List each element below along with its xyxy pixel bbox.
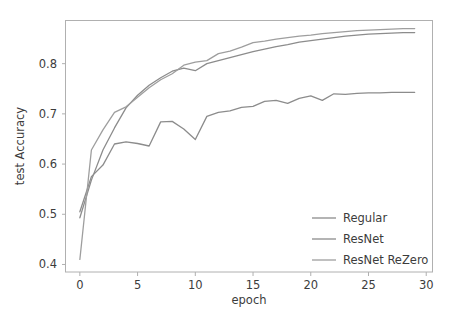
x-axis-ticks: 051015202530 bbox=[76, 272, 433, 292]
y-tick-label: 0.4 bbox=[39, 257, 57, 271]
y-axis-ticks: 0.40.50.60.70.8 bbox=[39, 57, 66, 272]
x-tick-label: 15 bbox=[246, 278, 261, 292]
x-tick-label: 10 bbox=[188, 278, 203, 292]
x-tick-label: 30 bbox=[419, 278, 434, 292]
series-line-resnet bbox=[80, 33, 415, 218]
y-tick-label: 0.8 bbox=[39, 57, 57, 71]
legend-label-resnet: ResNet bbox=[343, 232, 384, 246]
y-tick-label: 0.5 bbox=[39, 207, 57, 221]
y-tick-label: 0.6 bbox=[39, 157, 57, 171]
figure-container: 051015202530 0.40.50.60.70.8 RegularResN… bbox=[0, 0, 461, 319]
x-tick-label: 5 bbox=[134, 278, 141, 292]
y-axis-label: test Accuracy bbox=[13, 107, 27, 185]
legend-label-regular: Regular bbox=[343, 211, 387, 225]
chart-legend: RegularResNetResNet ReZero bbox=[312, 211, 428, 267]
y-tick-label: 0.7 bbox=[39, 107, 57, 121]
line-chart: 051015202530 0.40.50.60.70.8 RegularResN… bbox=[0, 0, 461, 319]
x-tick-label: 25 bbox=[361, 278, 376, 292]
series-line-regular bbox=[80, 92, 415, 211]
x-tick-label: 0 bbox=[76, 278, 83, 292]
x-axis-label: epoch bbox=[231, 293, 266, 307]
x-tick-label: 20 bbox=[303, 278, 318, 292]
legend-label-resnet-rezero: ResNet ReZero bbox=[343, 253, 428, 267]
